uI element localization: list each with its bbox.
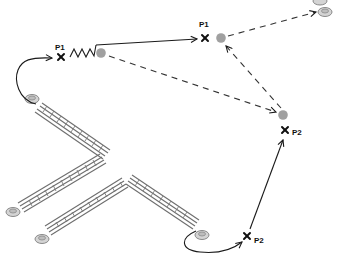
- disc-top-right-a: [318, 8, 332, 17]
- gray-point-near-spring: [96, 48, 106, 58]
- diagram-canvas: P1 P1 P2 P2: [0, 0, 337, 255]
- dashed-connections: [109, 12, 316, 112]
- curve-arrow-to-p2-lower: [184, 231, 242, 253]
- dashed-arrow-spring-to-p2: [109, 56, 276, 112]
- spring-zigzag: [70, 45, 96, 57]
- lower-ladder-track: [45, 175, 199, 235]
- disc-upper-ladder-top: [25, 95, 39, 104]
- dashed-arrow-p2-to-p1: [226, 46, 281, 108]
- disc-upper-ladder-bottom: [6, 208, 20, 217]
- solid-arrow-to-p1-end: [96, 39, 197, 45]
- label-p1-start: P1: [55, 43, 65, 52]
- lower-ladder-segment-b: [126, 175, 199, 229]
- upper-ladder-segment-a: [35, 103, 110, 159]
- label-p1-end: P1: [199, 20, 209, 29]
- dashed-arrow-to-top-right-disc: [228, 12, 316, 36]
- label-p2-lower: P2: [254, 236, 264, 245]
- lower-ladder-segment-a: [45, 178, 128, 235]
- disc-lower-ladder-right: [195, 231, 209, 240]
- disc-top-right-b: [313, 0, 327, 5]
- x-marker-p2-upper: [282, 127, 288, 133]
- solid-arrow-to-p2-upper: [250, 140, 283, 229]
- gray-point-near-p2: [278, 110, 288, 120]
- gray-point-near-p1: [216, 33, 226, 43]
- upper-ladder-segment-b: [18, 154, 106, 212]
- x-marker-p1-start: [58, 54, 64, 60]
- x-marker-p2-lower: [244, 233, 250, 239]
- x-markers: [58, 35, 288, 239]
- disc-lower-ladder-left: [35, 235, 49, 244]
- solid-connections: [17, 39, 283, 253]
- x-marker-p1-end: [202, 35, 208, 41]
- upper-ladder-track: [18, 103, 110, 212]
- label-p2-upper: P2: [292, 128, 302, 137]
